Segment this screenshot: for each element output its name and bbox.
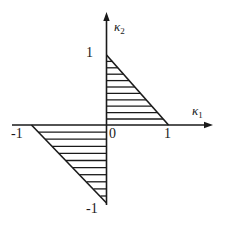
y-axis-label-subscript: 2 bbox=[120, 26, 125, 36]
lower-left-triangle-region bbox=[32, 125, 107, 203]
y-axis-label: κ2 bbox=[114, 20, 125, 33]
y-axis bbox=[103, 12, 109, 205]
x-tick-label-negative-one: -1 bbox=[11, 127, 23, 141]
x-axis-label: κ1 bbox=[192, 104, 203, 117]
x-tick-label-zero: 0 bbox=[109, 127, 116, 141]
upper-right-triangle-region bbox=[107, 55, 169, 125]
x-axis-arrowhead-icon bbox=[204, 122, 213, 128]
x-axis-label-subscript: 1 bbox=[198, 110, 203, 120]
y-tick-label-negative-one: -1 bbox=[86, 202, 98, 216]
x-tick-label-positive-one: 1 bbox=[164, 127, 171, 141]
upper-hypotenuse-line bbox=[107, 55, 169, 125]
y-tick-label-positive-one: 1 bbox=[86, 46, 93, 60]
lower-hypotenuse-line bbox=[32, 125, 107, 203]
y-axis-arrowhead-icon bbox=[103, 12, 109, 21]
kappa-region-figure: κ2 κ1 1 -1 -1 0 1 bbox=[0, 0, 225, 227]
